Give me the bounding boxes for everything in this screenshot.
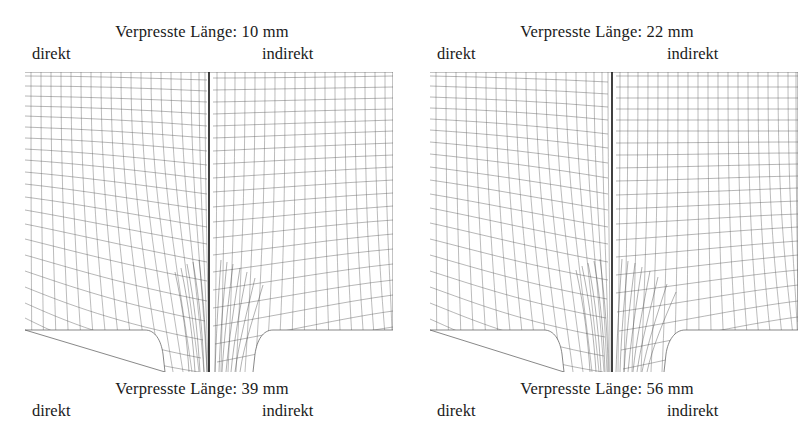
panel-left-bottom-label-indirekt: indirekt xyxy=(262,401,313,421)
panel-right-top-caption-block: Verpresste Länge: 22 mm direkt indirekt xyxy=(405,22,809,42)
panel-left-top-label-direkt: direkt xyxy=(32,44,71,64)
panel-right-bottom-label-direkt: direkt xyxy=(437,401,476,421)
panel-right-mesh xyxy=(430,72,798,372)
figure-flow-net-comparison: Verpresste Länge: 10 mm direkt indirekt xyxy=(0,0,809,436)
panel-right-top-labels: direkt indirekt xyxy=(405,44,809,64)
panel-right-top-label-direkt: direkt xyxy=(437,44,476,64)
panel-right-bottom-labels: direkt indirekt xyxy=(405,401,809,421)
panel-left-bottom-caption: Verpresste Länge: 39 mm xyxy=(0,379,404,399)
panel-right-bottom-caption-block: Verpresste Länge: 56 mm direkt indirekt xyxy=(405,379,809,399)
panel-left-bottom-labels: direkt indirekt xyxy=(0,401,404,421)
panel-right: Verpresste Länge: 22 mm direkt indirekt xyxy=(405,0,809,436)
panel-left-top-caption: Verpresste Länge: 10 mm xyxy=(0,22,404,42)
panel-right-bottom-caption: Verpresste Länge: 56 mm xyxy=(405,379,809,399)
panel-right-top-label-indirekt: indirekt xyxy=(667,44,718,64)
panel-left-top-caption-block: Verpresste Länge: 10 mm direkt indirekt xyxy=(0,22,404,42)
panel-left-mesh xyxy=(25,72,393,372)
panel-left-top-label-indirekt: indirekt xyxy=(262,44,313,64)
panel-left: Verpresste Länge: 10 mm direkt indirekt xyxy=(0,0,404,436)
panel-left-top-labels: direkt indirekt xyxy=(0,44,404,64)
panel-right-top-caption: Verpresste Länge: 22 mm xyxy=(405,22,809,42)
panel-left-bottom-caption-block: Verpresste Länge: 39 mm direkt indirekt xyxy=(0,379,404,399)
panel-right-mesh-lines xyxy=(430,72,798,372)
panel-left-bottom-label-direkt: direkt xyxy=(32,401,71,421)
panel-right-mesh-svg xyxy=(430,72,798,372)
panel-left-mesh-svg xyxy=(25,72,393,372)
panel-right-bottom-label-indirekt: indirekt xyxy=(667,401,718,421)
